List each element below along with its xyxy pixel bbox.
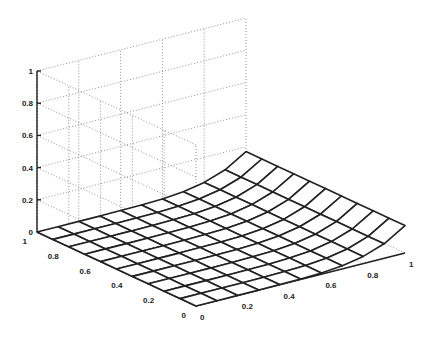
surface-mesh (37, 152, 405, 306)
y-tick-label: 0.8 (48, 252, 60, 261)
z-tick-label: 1 (29, 67, 34, 76)
grid-line (37, 82, 246, 135)
z-tick-label: 0 (29, 228, 34, 237)
grid-line (37, 71, 196, 145)
y-tick-label: 0.2 (143, 296, 155, 305)
x-tick-label: 0.8 (367, 271, 379, 280)
y-tick-label: 0.4 (111, 281, 123, 290)
x-tick-label: 0.4 (284, 292, 296, 301)
x-tick-label: 0.6 (325, 281, 337, 290)
surface-plot: 00.20.40.60.8100.20.40.60.8100.20.40.60.… (0, 0, 423, 337)
grid-line (37, 103, 196, 177)
grid-line (37, 18, 246, 71)
x-tick-label: 0 (200, 313, 205, 322)
grid-line (37, 50, 246, 103)
y-tick-label: 0 (182, 311, 187, 320)
z-tick-label: 0.6 (22, 131, 34, 140)
z-tick-label: 0.8 (22, 99, 34, 108)
x-tick-label: 1 (409, 260, 414, 269)
z-tick-label: 0.4 (22, 164, 34, 173)
grid-line (37, 115, 246, 168)
y-tick-label: 0.6 (79, 267, 91, 276)
y-tick-label: 1 (23, 237, 28, 246)
z-tick-label: 0.2 (22, 196, 34, 205)
x-tick-label: 0.2 (242, 302, 254, 311)
